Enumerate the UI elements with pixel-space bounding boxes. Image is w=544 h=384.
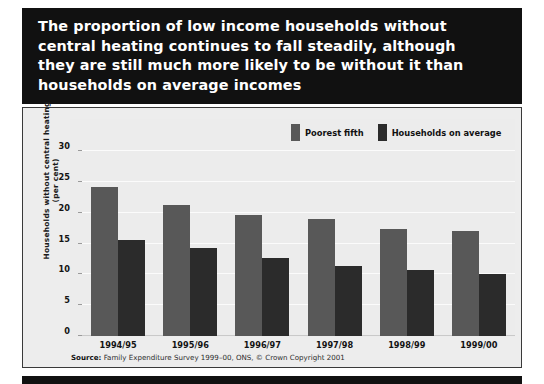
y-tick-mark-10 (78, 273, 82, 274)
y-tick-label-10: 10 (59, 264, 70, 274)
bar-poorest-fifth[interactable] (163, 205, 190, 336)
y-tick-label-15: 15 (59, 234, 70, 244)
bar-group: 1995/96 (163, 151, 217, 336)
x-tick-label: 1994/95 (99, 340, 136, 350)
bar-poorest-fifth[interactable] (308, 219, 335, 336)
y-tick-mark-25 (78, 181, 82, 182)
y-axis-title: Households without central heating (per … (42, 100, 61, 260)
gridline-25 (82, 181, 515, 182)
bar-poorest-fifth[interactable] (452, 231, 479, 336)
legend-label-poorest-fifth: Poorest fifth (305, 128, 364, 138)
legend-item-households-on-average: Households on average (378, 124, 502, 141)
bar-poorest-fifth[interactable] (380, 229, 407, 336)
gridline-10 (82, 273, 515, 274)
source-text: Family Expenditure Survey 1999–00, ONS, … (101, 353, 344, 362)
bar-group: 1998/99 (380, 151, 434, 336)
figure: The proportion of low income households … (22, 8, 522, 368)
headline-text: The proportion of low income households … (38, 17, 506, 95)
source-line: Source: Family Expenditure Survey 1999–0… (71, 353, 345, 362)
y-tick-mark-15 (78, 243, 82, 244)
y-tick-mark-30 (78, 150, 82, 151)
legend-label-households-on-average: Households on average (392, 128, 502, 138)
y-tick-label-20: 20 (59, 203, 70, 213)
gridline-0 (82, 335, 515, 336)
x-tick-label: 1995/96 (172, 340, 209, 350)
bar-households-on-average[interactable] (335, 266, 362, 336)
gridline-20 (82, 212, 515, 213)
bar-households-on-average[interactable] (190, 248, 217, 336)
chart-panel: Households without central heating (per … (22, 107, 522, 368)
headline-band: The proportion of low income households … (22, 8, 522, 104)
x-tick-label: 1999/00 (460, 340, 497, 350)
bar-households-on-average[interactable] (479, 274, 506, 336)
y-tick-mark-5 (78, 304, 82, 305)
gridline-5 (82, 304, 515, 305)
bar-group: 1999/00 (452, 151, 506, 336)
legend-swatch-poorest-fifth (291, 124, 300, 141)
y-tick-label-5: 5 (64, 295, 70, 305)
y-tick-label-0: 0 (64, 326, 70, 336)
legend-item-poorest-fifth: Poorest fifth (291, 124, 364, 141)
y-tick-mark-20 (78, 212, 82, 213)
bar-poorest-fifth[interactable] (235, 215, 262, 336)
bar-households-on-average[interactable] (118, 240, 145, 336)
next-section-strip (22, 376, 522, 384)
bar-group: 1996/97 (235, 151, 289, 336)
chart-legend: Poorest fifth Households on average (291, 124, 501, 141)
y-tick-label-30: 30 (59, 141, 70, 151)
source-label: Source: (71, 353, 101, 362)
bar-poorest-fifth[interactable] (91, 187, 118, 336)
plot-area: 0510152025301994/951995/961996/971997/98… (82, 151, 515, 336)
x-tick-label: 1997/98 (316, 340, 353, 350)
y-tick-mark-0 (78, 335, 82, 336)
bar-households-on-average[interactable] (262, 258, 289, 336)
bar-group: 1994/95 (91, 151, 145, 336)
bar-households-on-average[interactable] (407, 270, 434, 336)
bar-group: 1997/98 (308, 151, 362, 336)
legend-swatch-households-on-average (378, 124, 387, 141)
gridline-15 (82, 243, 515, 244)
x-tick-label: 1998/99 (388, 340, 425, 350)
x-tick-label: 1996/97 (244, 340, 281, 350)
gridline-30 (82, 150, 515, 151)
y-tick-label-25: 25 (59, 172, 70, 182)
